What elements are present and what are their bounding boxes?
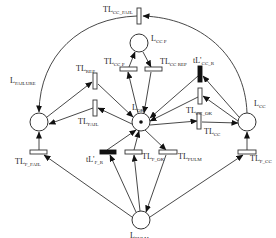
label-l-fulm: LFULM <box>130 231 149 238</box>
arc-tlfok-to-lok <box>134 131 139 150</box>
arc-tlrep-to-lok <box>98 84 133 117</box>
place-l-failure <box>30 113 48 131</box>
token-dot <box>139 120 143 124</box>
arc-lok-to-tlcc <box>150 121 197 125</box>
arc-lfailure-to-tlrep <box>47 82 92 117</box>
place-l-cc-p <box>130 34 148 52</box>
transition-tl-cc-ok <box>198 88 202 104</box>
label-tl-fulm: TLFULM <box>178 152 202 162</box>
transition-tl-fail <box>93 100 97 116</box>
arc-tlccp-to-lccp <box>129 52 135 67</box>
arc-tlccrep-to-lok <box>144 72 151 113</box>
label-tl-cc-rep: TLCC REP <box>160 57 187 67</box>
label-l-cc-p: LCC P <box>151 34 167 44</box>
label-tl-prime-cc-r: tL'CC_R <box>193 56 215 66</box>
arc-lfulm-to-tlfok <box>134 155 140 211</box>
label-tl-cc: TLCC <box>204 127 221 137</box>
arc-lok-to-tlfail <box>98 108 132 124</box>
label-tl-cc-ok: TLCC_OK <box>186 106 213 116</box>
arc-tlfr-to-lok <box>107 130 136 150</box>
petri-net-diagram: TLCC_FAIL LCC P TLCC P TLCC REP tL'CC_R … <box>0 0 276 238</box>
arc-lcc-to-tlccok <box>203 96 238 121</box>
arc-tlcc-to-lcc <box>202 122 238 123</box>
transitions <box>30 8 256 154</box>
place-l-fulm <box>132 211 150 229</box>
label-l-failure: LFAILURE <box>10 76 36 86</box>
label-tl-fail: TLFAIL <box>78 117 99 127</box>
places <box>30 34 256 229</box>
label-tl-f-fail: TLF_FAIL <box>15 157 41 167</box>
transition-tl-prime-f-r <box>100 150 116 154</box>
transition-tl-cc-rep <box>145 67 162 71</box>
label-tl-cc-p: TLCC P <box>104 57 125 67</box>
label-tl-f-cc: TLF_CC <box>250 154 272 164</box>
label-tl-prime-f-r: tL'F_R <box>86 155 104 165</box>
label-l-ok: LOK <box>132 103 145 113</box>
transition-tl-cc-p <box>120 67 137 71</box>
transition-tl-fulm <box>159 150 177 154</box>
transition-tl-rep <box>93 73 97 89</box>
transition-tl-f-ok <box>125 150 142 154</box>
transition-tl-prime-cc-r <box>198 66 202 82</box>
arc-lfulm-to-tlfcc <box>150 155 243 217</box>
arc-lfulm-to-tlffail <box>44 155 132 217</box>
arc-tlfulm-to-lfulm <box>146 155 166 212</box>
arc-lfulm-to-tlfr <box>110 155 136 212</box>
label-l-cc: LCC <box>254 99 266 109</box>
place-l-cc <box>238 113 256 131</box>
arc-lccp-to-tlccrep <box>143 52 151 67</box>
transition-tl-cc-fail <box>137 8 141 24</box>
transition-tl-f-fail <box>30 150 47 154</box>
arc-lok-to-tlfulm <box>145 130 166 150</box>
label-tl-cc-fail: TLCC_FAIL <box>103 5 133 15</box>
label-tl-rep: TLREP <box>76 64 95 74</box>
